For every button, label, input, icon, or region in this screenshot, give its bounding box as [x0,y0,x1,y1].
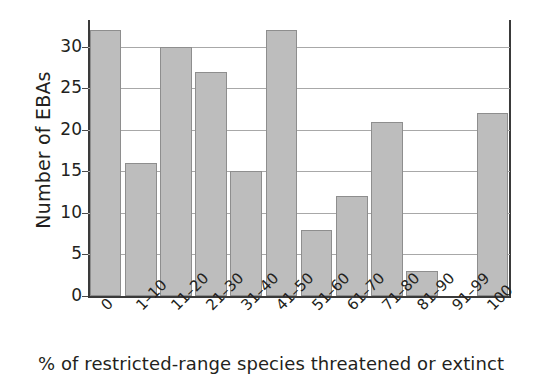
bar [125,163,157,296]
y-tick-label: 0 [48,287,82,304]
bar [477,113,509,296]
y-tick-mark [82,296,88,297]
bar [160,47,192,296]
y-tick-label: 5 [48,245,82,262]
y-tick-label: 20 [48,121,82,138]
y-tick-label: 30 [48,38,82,55]
bar [266,30,298,296]
y-tick-label: 10 [48,204,82,221]
bar [90,30,122,296]
plot-area [88,22,510,296]
y-tick-label: 25 [48,79,82,96]
bar-chart: Number of EBAs 051015202530 01–1011–2021… [0,0,542,382]
y-tick-label: 15 [48,162,82,179]
x-axis-title: % of restricted-range species threatened… [0,353,542,375]
bar [195,72,227,296]
